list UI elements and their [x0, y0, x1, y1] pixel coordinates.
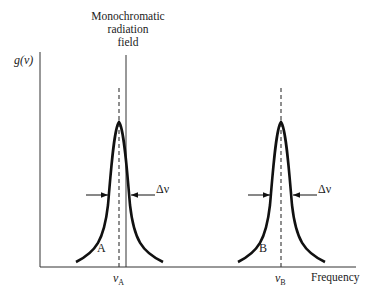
nu-b-subscript: B: [280, 278, 285, 287]
field-label-line-2: radiation: [88, 23, 168, 36]
field-label-line-1: Monochromatic: [88, 10, 168, 23]
linewidth-label-a: Δν: [156, 183, 169, 195]
y-axis-label: g(ν): [14, 54, 33, 66]
linewidth-label-b: Δν: [318, 183, 331, 195]
center-frequency-label-b: νB: [275, 272, 286, 287]
delta-nu-a: Δν: [156, 182, 169, 196]
nu-a-subscript: A: [118, 278, 124, 287]
line-shape-diagram: [0, 0, 372, 296]
field-label: Monochromatic radiation field: [88, 10, 168, 49]
lorentzian-curve-a: [76, 122, 163, 262]
center-frequency-label-a: νA: [113, 272, 124, 287]
curve-label-b: B: [259, 242, 267, 254]
x-axis-label: Frequency: [311, 272, 360, 284]
curve-label-a: A: [97, 242, 106, 254]
field-label-line-3: field: [88, 36, 168, 49]
lorentzian-curve-b: [238, 122, 325, 262]
delta-nu-b: Δν: [318, 182, 331, 196]
